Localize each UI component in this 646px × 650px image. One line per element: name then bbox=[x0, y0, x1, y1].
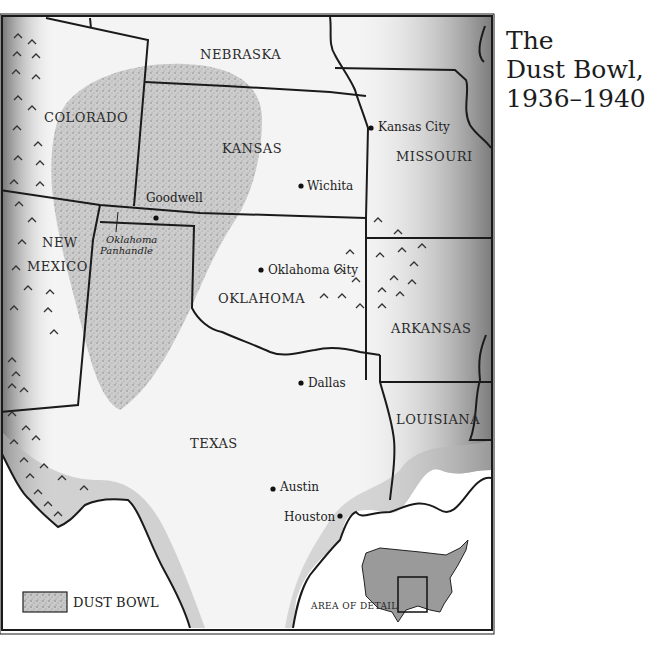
label-dallas: Dallas bbox=[308, 376, 346, 390]
label-missouri: MISSOURI bbox=[396, 149, 473, 164]
title-line-3: 1936–1940 bbox=[506, 84, 646, 113]
city-dot-goodwell bbox=[153, 215, 158, 220]
label-panhandle-2: Panhandle bbox=[99, 245, 153, 256]
city-dot-houston bbox=[337, 513, 342, 518]
label-arkansas: ARKANSAS bbox=[390, 321, 471, 336]
label-kansas: KANSAS bbox=[222, 141, 282, 156]
label-new-mexico-2: MEXICO bbox=[27, 259, 88, 274]
title-line-1: The bbox=[506, 26, 646, 55]
city-dot-oklahoma-city bbox=[258, 267, 263, 272]
label-wichita: Wichita bbox=[307, 179, 353, 193]
city-dot-dallas bbox=[298, 380, 303, 385]
label-nebraska: NEBRASKA bbox=[200, 47, 281, 62]
city-dot-wichita bbox=[298, 183, 303, 188]
label-texas: TEXAS bbox=[190, 436, 238, 451]
label-houston: Houston bbox=[284, 510, 336, 524]
city-dot-austin bbox=[270, 486, 275, 491]
label-new-mexico-1: NEW bbox=[42, 235, 78, 250]
legend: DUST BOWL bbox=[23, 592, 159, 612]
label-oklahoma: OKLAHOMA bbox=[218, 291, 305, 306]
label-colorado: COLORADO bbox=[44, 110, 128, 125]
label-panhandle-1: Oklahoma bbox=[106, 234, 157, 245]
legend-swatch bbox=[23, 592, 67, 612]
title-line-2: Dust Bowl, bbox=[506, 55, 646, 84]
label-oklahoma-city: Oklahoma City bbox=[268, 263, 358, 277]
label-kansas-city: Kansas City bbox=[378, 120, 450, 134]
legend-label: DUST BOWL bbox=[73, 595, 159, 610]
inset-label: AREA OF DETAIL bbox=[310, 601, 398, 611]
map-title: The Dust Bowl, 1936–1940 bbox=[506, 26, 646, 113]
city-dot-kansas-city bbox=[368, 125, 373, 130]
label-austin: Austin bbox=[279, 480, 319, 494]
label-goodwell: Goodwell bbox=[146, 191, 203, 205]
label-louisiana: LOUISIANA bbox=[396, 412, 480, 427]
